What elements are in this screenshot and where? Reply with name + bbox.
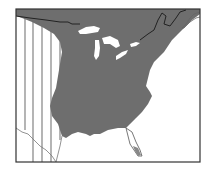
range-map (0, 0, 207, 179)
